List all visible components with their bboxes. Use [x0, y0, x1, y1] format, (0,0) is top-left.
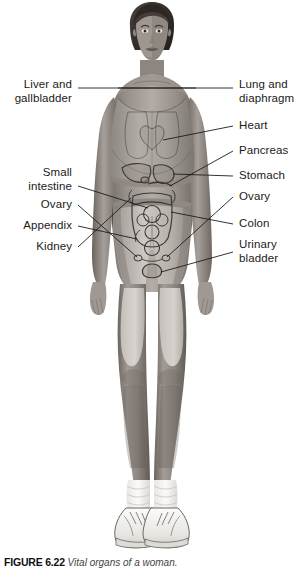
- label-urinary-bladder: Urinary bladder: [239, 238, 278, 265]
- label-small-intestine: Small intestine: [28, 166, 72, 193]
- label-heart: Heart: [239, 119, 268, 133]
- label-lung-diaphragm: Lung and diaphragm: [239, 78, 294, 105]
- label-ovary-left: Ovary: [41, 198, 72, 212]
- label-colon: Colon: [239, 217, 270, 231]
- figure-caption-text: Vital organs of a woman.: [65, 557, 178, 568]
- label-kidney: Kidney: [36, 240, 72, 254]
- figure-caption: FIGURE 6.22 Vital organs of a woman.: [4, 556, 304, 569]
- figure-number: FIGURE 6.22: [4, 556, 65, 568]
- label-stomach: Stomach: [239, 169, 285, 183]
- label-pancreas: Pancreas: [239, 144, 288, 158]
- label-ovary-right: Ovary: [239, 190, 270, 204]
- label-liver-gallbladder: Liver and gallbladder: [15, 78, 72, 105]
- anatomy-figure-panel: Liver and gallbladder Small intestine Ov…: [0, 0, 304, 569]
- label-appendix: Appendix: [23, 219, 72, 233]
